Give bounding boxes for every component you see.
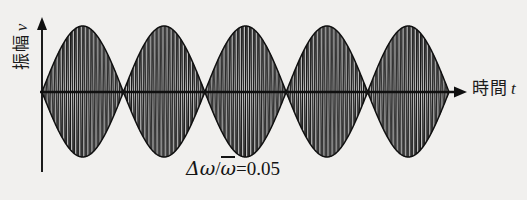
y-axis-label-variable: v xyxy=(12,23,31,35)
x-axis-label: 時間t xyxy=(472,80,517,97)
y-axis-label: 振幅v xyxy=(13,10,30,84)
beat-waveform-figure: 振幅v 時間t Δω/ω=0.05 xyxy=(0,0,527,200)
y-axis-arrowhead xyxy=(37,17,47,30)
ratio-annotation: Δω/ω=0.05 xyxy=(186,157,280,180)
omega-bar-symbol: ω xyxy=(221,157,237,179)
x-axis-arrowhead xyxy=(454,87,467,98)
ratio-value: 0.05 xyxy=(247,158,280,179)
x-axis-label-text: 時間 xyxy=(472,79,508,98)
omega-symbol: ω xyxy=(200,157,216,179)
x-axis-label-variable: t xyxy=(508,79,517,98)
y-axis-label-text: 振幅 xyxy=(12,34,31,70)
delta-symbol: Δ xyxy=(186,157,200,179)
equals-symbol: = xyxy=(236,158,247,179)
